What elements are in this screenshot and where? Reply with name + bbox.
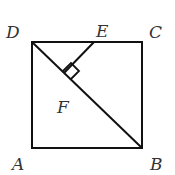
label-d: D bbox=[5, 22, 20, 42]
label-a: A bbox=[10, 154, 24, 174]
label-f: F bbox=[56, 97, 70, 117]
label-b: B bbox=[149, 154, 163, 174]
label-c: C bbox=[149, 22, 162, 42]
segment-ef bbox=[64, 42, 94, 73]
diagonal-db bbox=[32, 42, 142, 148]
label-e: E bbox=[95, 21, 109, 41]
geometry-diagram: D E C F A B bbox=[0, 0, 175, 175]
